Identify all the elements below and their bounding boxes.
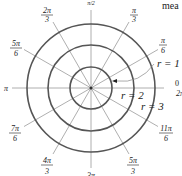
label-pi6-num: π — [161, 36, 166, 45]
label-4pi3-num: 4π — [43, 156, 52, 165]
label-11pi6-num: 11π — [160, 124, 172, 133]
origin-dot — [90, 87, 93, 90]
label-2pi3-num: 2π — [43, 6, 52, 15]
label-7pi6-num: 7π — [11, 124, 20, 133]
clipped-text: mea — [162, 0, 179, 11]
r1-pointer-arrow — [116, 64, 154, 81]
label-pi: π — [4, 84, 9, 93]
label-3pi2: 3π — [86, 171, 96, 176]
polar-grid-diagram: π/2 π 3 2π 3 5π 6 π 6 π 0 2π 7π 6 11π 6 … — [0, 0, 182, 176]
label-r3: r = 3 — [141, 100, 164, 112]
label-4pi3-den: 3 — [44, 167, 49, 176]
label-pi6-den: 6 — [161, 46, 165, 55]
arrowhead-icon — [112, 79, 117, 83]
label-pi3-num: π — [132, 6, 137, 15]
label-pi-over-2: π/2 — [87, 0, 95, 6]
label-7pi6-den: 6 — [13, 134, 17, 143]
label-5pi3-num: 5π — [129, 156, 138, 165]
label-pi3-den: 3 — [131, 15, 136, 24]
label-11pi6-den: 6 — [164, 134, 168, 143]
label-2pi: 2π — [176, 89, 182, 98]
label-r1: r = 1 — [157, 57, 180, 69]
label-5pi6-num: 5π — [12, 39, 21, 48]
label-zero: 0 — [175, 79, 179, 88]
label-2pi3-den: 3 — [44, 15, 49, 24]
label-5pi6-den: 6 — [14, 49, 18, 58]
label-5pi3-den: 3 — [130, 167, 135, 176]
